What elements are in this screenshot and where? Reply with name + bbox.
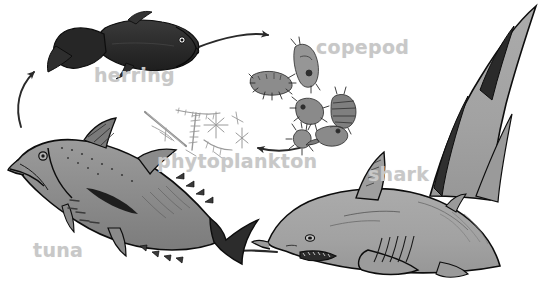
copepod-6 <box>306 126 348 146</box>
label-shark: shark <box>368 165 429 184</box>
label-copepod: copepod <box>316 38 409 57</box>
label-tuna: tuna <box>33 241 83 260</box>
copepod-3 <box>290 97 329 131</box>
arrow-herring-to-copepod <box>196 34 268 48</box>
copepod-1 <box>249 71 296 100</box>
label-phytoplankton: phytoplankton <box>157 152 317 171</box>
arrow-tuna-to-herring <box>18 72 34 127</box>
food-chain-diagram: herring copepod phytoplankton tuna shark <box>0 0 539 285</box>
label-herring: herring <box>94 66 175 85</box>
